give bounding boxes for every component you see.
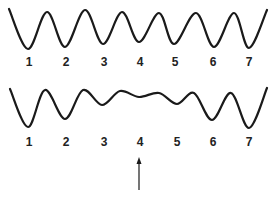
wave-diagram: 1234567 1234567 xyxy=(0,0,274,200)
trough-label-5: 5 xyxy=(174,135,181,149)
trough-label-1: 1 xyxy=(26,55,33,69)
bottom-wave-curve xyxy=(10,88,267,128)
top-wave-labels: 1234567 xyxy=(26,55,253,69)
trough-label-2: 2 xyxy=(63,135,70,149)
trough-label-5: 5 xyxy=(172,55,179,69)
trough-label-7: 7 xyxy=(246,55,253,69)
trough-label-3: 3 xyxy=(101,135,108,149)
arrow-up-icon xyxy=(137,157,142,190)
trough-label-6: 6 xyxy=(210,55,217,69)
trough-label-7: 7 xyxy=(246,135,253,149)
trough-label-3: 3 xyxy=(101,55,108,69)
bottom-wave-labels: 1234567 xyxy=(26,135,253,149)
top-wave-curve xyxy=(9,9,267,49)
trough-label-4: 4 xyxy=(137,135,144,149)
trough-label-4: 4 xyxy=(137,55,144,69)
trough-label-2: 2 xyxy=(63,55,70,69)
trough-label-1: 1 xyxy=(26,135,33,149)
trough-label-6: 6 xyxy=(210,135,217,149)
